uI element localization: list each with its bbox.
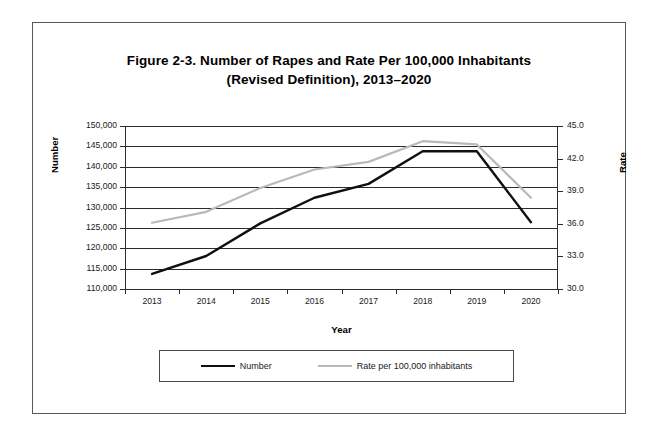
series-line-rate: [152, 141, 531, 223]
legend-item-rate: Rate per 100,000 inhabitants: [318, 361, 473, 371]
legend-swatch-number-icon: [201, 365, 235, 367]
x-axis-title: Year: [125, 324, 558, 335]
legend-label-rate: Rate per 100,000 inhabitants: [357, 361, 473, 371]
legend-item-number: Number: [201, 361, 272, 371]
legend-swatch-rate-icon: [318, 365, 352, 367]
series-line-number: [152, 151, 531, 274]
y-axis-left-title: Number: [49, 137, 60, 173]
chart-legend: Number Rate per 100,000 inhabitants: [159, 350, 514, 382]
y-axis-right-title: Rate: [617, 152, 628, 173]
figure-frame: Figure 2-3. Number of Rapes and Rate Per…: [32, 22, 626, 414]
plot-wrapper: 110,000115,000120,000125,000130,000135,0…: [33, 23, 627, 415]
legend-label-number: Number: [240, 361, 272, 371]
